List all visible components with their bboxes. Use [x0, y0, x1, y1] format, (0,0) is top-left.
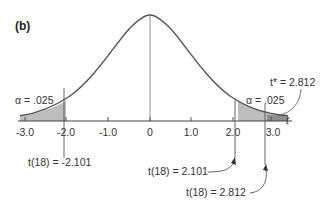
t-distribution-chart: -3.0 -2.0 -1.0 0 1.0 2.0 3.0 t (b) α = .…	[0, 0, 331, 205]
alpha-left-label: α = .025	[15, 94, 54, 106]
svg-text:-3.0: -3.0	[16, 126, 34, 138]
observed-arrow	[250, 170, 266, 193]
observed-arrowhead	[263, 164, 268, 171]
x-axis-label: t	[286, 114, 290, 126]
svg-text:0: 0	[147, 126, 153, 138]
critical-left-label: t(18) = -2.101	[28, 156, 91, 168]
t-star-label: t* = 2.812	[270, 76, 315, 88]
svg-text:-1.0: -1.0	[99, 126, 117, 138]
x-tick-labels: -3.0 -2.0 -1.0 0 1.0 2.0 3.0	[16, 126, 280, 138]
alpha-right-label: α = .025	[246, 94, 285, 106]
svg-text:1.0: 1.0	[184, 126, 199, 138]
panel-label: (b)	[15, 19, 30, 33]
svg-text:3.0: 3.0	[266, 126, 281, 138]
critical-right-arrow	[208, 162, 234, 172]
critical-right-label: t(18) = 2.101	[148, 165, 208, 177]
svg-text:2.0: 2.0	[226, 126, 241, 138]
critical-right-arrowhead	[231, 157, 236, 165]
observed-label: t(18) = 2.812	[186, 186, 246, 198]
svg-text:-2.0: -2.0	[57, 126, 75, 138]
